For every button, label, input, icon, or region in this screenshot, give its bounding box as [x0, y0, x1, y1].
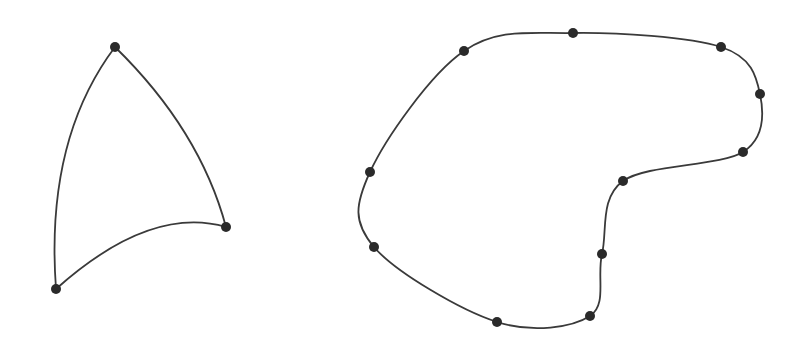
diagram-canvas [0, 0, 794, 351]
control-point[interactable] [597, 249, 607, 259]
triangle-shape [51, 42, 231, 294]
control-point[interactable] [365, 167, 375, 177]
control-point[interactable] [618, 176, 628, 186]
curve-segment [358, 33, 762, 328]
blob-shape [358, 28, 765, 328]
curve-segment [115, 47, 226, 227]
control-point[interactable] [755, 89, 765, 99]
curve-segment [56, 222, 226, 289]
control-point[interactable] [221, 222, 231, 232]
curve-segment [55, 47, 115, 289]
control-point[interactable] [568, 28, 578, 38]
control-point[interactable] [459, 46, 469, 56]
control-point[interactable] [716, 42, 726, 52]
control-point[interactable] [738, 147, 748, 157]
control-point[interactable] [51, 284, 61, 294]
control-point[interactable] [110, 42, 120, 52]
control-point[interactable] [369, 242, 379, 252]
control-point[interactable] [585, 311, 595, 321]
control-point[interactable] [492, 317, 502, 327]
